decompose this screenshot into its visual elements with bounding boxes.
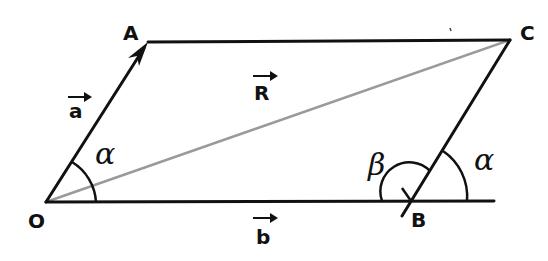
angle-arc-alpha-b: [443, 151, 467, 201]
angle-arc-alpha-o: [72, 162, 96, 202]
vector-r-line: [46, 40, 510, 202]
arrow-right-icon: [270, 213, 278, 223]
angle-label-alpha-o: α: [95, 136, 115, 171]
point-label-a: A: [123, 21, 139, 45]
parallelogram-diagram: O A C B a R b α β α: [0, 0, 548, 261]
angle-label-alpha-b: α: [474, 142, 494, 177]
svg-text:a: a: [69, 99, 83, 123]
side-ac-line: [148, 40, 510, 42]
vector-label-a: a: [68, 92, 92, 123]
vector-a-arrowhead-icon: [128, 42, 148, 66]
point-label-c: C: [520, 21, 535, 45]
vector-label-r: R: [253, 71, 278, 105]
svg-text:R: R: [254, 81, 269, 105]
vector-b-line: [46, 201, 494, 202]
svg-text:b: b: [256, 225, 270, 249]
arrow-right-icon: [270, 71, 278, 81]
point-label-o: O: [28, 209, 45, 233]
stray-mark: [450, 28, 451, 31]
arrow-right-icon: [84, 92, 92, 102]
vector-a-line: [46, 48, 144, 202]
side-cb-line: [402, 40, 510, 216]
b-tick-mark: [402, 188, 411, 201]
vector-label-b: b: [253, 213, 278, 249]
angle-label-beta-b: β: [367, 147, 385, 182]
point-label-b: B: [411, 208, 426, 232]
